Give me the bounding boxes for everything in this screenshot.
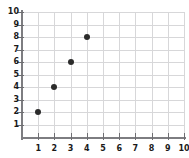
data-point (84, 34, 90, 40)
gridline-horizontal (22, 37, 184, 38)
y-axis-tick-label: 7 (3, 46, 19, 54)
x-axis-tick (168, 133, 169, 140)
gridline-horizontal (22, 75, 184, 76)
x-axis-tick-label: 4 (80, 145, 94, 153)
x-axis-tick-label: 1 (31, 145, 45, 153)
x-axis-tick (38, 133, 39, 140)
x-axis-tick-label: 7 (128, 145, 142, 153)
y-axis-tick-label: 8 (3, 33, 19, 41)
x-axis-tick-label: 3 (64, 145, 78, 153)
x-axis-tick (87, 133, 88, 140)
gridline-vertical (184, 12, 185, 137)
y-axis-tick-label: 6 (3, 58, 19, 66)
x-axis-tick (71, 133, 72, 140)
x-axis-tick (103, 133, 104, 140)
x-axis-tick-label: 6 (112, 145, 126, 153)
x-axis-tick (184, 133, 185, 140)
gridline-horizontal (22, 125, 184, 126)
y-axis-tick-label: 4 (3, 83, 19, 91)
x-axis-tick (54, 133, 55, 140)
y-axis-tick-label: 9 (3, 21, 19, 29)
gridline-horizontal (22, 12, 184, 13)
x-axis-tick-label: 9 (161, 145, 175, 153)
y-axis-tick-label: 1 (3, 121, 19, 129)
x-axis-tick-label: 10 (177, 145, 189, 153)
x-axis-tick-label: 2 (47, 145, 61, 153)
gridline-horizontal (22, 62, 184, 63)
x-axis-tick-label: 8 (145, 145, 159, 153)
gridline-horizontal (22, 50, 184, 51)
scatter-plot-chart: 1234567891012345678910 (0, 0, 189, 158)
gridline-horizontal (22, 87, 184, 88)
x-axis-tick (135, 133, 136, 140)
gridline-horizontal (22, 25, 184, 26)
x-axis-tick (152, 133, 153, 140)
y-axis-tick-label: 2 (3, 108, 19, 116)
x-axis-tick-label: 5 (96, 145, 110, 153)
gridline-horizontal (22, 100, 184, 101)
x-axis-tick (119, 133, 120, 140)
plot-area (22, 12, 184, 137)
gridline-horizontal (22, 112, 184, 113)
y-axis-tick-label: 5 (3, 71, 19, 79)
data-point (68, 59, 74, 65)
y-axis-tick-label: 3 (3, 96, 19, 104)
y-axis-tick-label: 10 (3, 8, 19, 16)
